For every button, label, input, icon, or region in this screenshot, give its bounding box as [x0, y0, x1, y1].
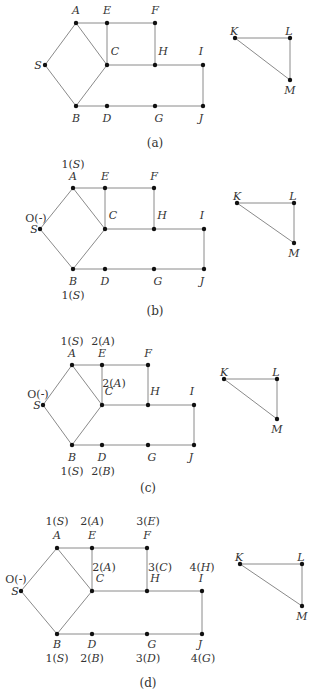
edge-B-C — [73, 229, 105, 269]
node-label-G: G — [148, 638, 157, 651]
node-D — [105, 104, 109, 108]
node-I — [200, 589, 204, 593]
node-label-E: E — [100, 170, 109, 183]
edge-K-M — [224, 379, 277, 419]
node-label-B: B — [71, 112, 80, 125]
node-G — [152, 267, 156, 271]
distance-label: 2(A) — [80, 515, 104, 528]
node-label-L: L — [284, 25, 292, 38]
node-F — [145, 546, 149, 550]
node-B — [74, 104, 78, 108]
node-C — [105, 63, 109, 67]
distance-label: 1(S) — [61, 289, 84, 302]
node-label-E: E — [87, 529, 96, 542]
node-G — [153, 104, 157, 108]
node-S — [43, 63, 47, 67]
node-F — [146, 363, 150, 367]
node-label-M: M — [295, 610, 308, 623]
node-label-H: H — [157, 45, 168, 58]
panel-caption-d: (d) — [139, 676, 156, 690]
node-C — [100, 403, 104, 407]
node-label-F: F — [142, 529, 151, 542]
node-D — [103, 267, 107, 271]
node-C — [90, 589, 94, 593]
node-label-B: B — [67, 451, 76, 464]
node-S — [19, 589, 23, 593]
node-D — [90, 632, 94, 636]
node-label-C: C — [111, 45, 120, 58]
node-D — [100, 443, 104, 447]
node-S — [38, 227, 42, 231]
node-H — [146, 403, 150, 407]
node-label-K: K — [232, 190, 242, 203]
node-label-K: K — [234, 551, 244, 564]
distance-label: 2(B) — [91, 465, 115, 478]
panel-caption-a: (a) — [147, 136, 164, 150]
edge-K-M — [235, 38, 290, 80]
node-label-E: E — [97, 347, 106, 360]
node-G — [145, 632, 149, 636]
edge-K-M — [240, 564, 302, 606]
node-label-B: B — [68, 275, 77, 288]
panel-c: AEFSCHIBDGJKLM1(S)2(A)2(A)O(-)1(S)2(B)(c… — [27, 335, 283, 495]
node-label-D: D — [102, 112, 112, 125]
panel-b: AEFSCHIBDGJKLM1(S)O(-)1(S)(b) — [25, 158, 300, 318]
node-label-H: H — [156, 209, 167, 222]
node-label-D: D — [87, 638, 97, 651]
distance-label: O(-) — [5, 573, 26, 586]
edge-A-C — [72, 365, 102, 405]
distance-label: 1(S) — [60, 465, 83, 478]
panel-d: AEFSCHIBDGJKLM1(S)2(A)3(E)2(A)3(C)4(H)O(… — [5, 515, 308, 690]
node-label-A: A — [71, 4, 80, 17]
node-B — [71, 267, 75, 271]
node-label-S: S — [34, 59, 42, 72]
node-label-F: F — [150, 4, 159, 17]
node-B — [55, 632, 59, 636]
node-label-H: H — [149, 385, 160, 398]
edge-A-C — [76, 23, 107, 65]
node-label-I: I — [199, 209, 205, 222]
node-H — [153, 63, 157, 67]
edge-B-C — [76, 65, 107, 106]
node-label-A: A — [68, 170, 77, 183]
node-label-A: A — [52, 529, 61, 542]
edge-S-B — [45, 65, 76, 106]
panel-caption-b: (b) — [146, 304, 163, 318]
node-E — [90, 546, 94, 550]
node-label-K: K — [229, 25, 239, 38]
edge-B-C — [57, 591, 92, 634]
edge-A-C — [73, 188, 105, 229]
node-label-D: D — [100, 275, 110, 288]
node-S — [41, 403, 45, 407]
node-H — [152, 227, 156, 231]
distance-label: 2(A) — [91, 335, 115, 348]
edge-S-B — [43, 405, 72, 445]
node-label-M: M — [270, 423, 283, 436]
edge-S-B — [21, 591, 57, 634]
panel-caption-c: (c) — [140, 481, 156, 495]
node-M — [288, 78, 292, 82]
node-label-I: I — [189, 385, 195, 398]
node-F — [153, 21, 157, 25]
node-label-L: L — [271, 366, 279, 379]
node-A — [70, 363, 74, 367]
node-E — [100, 363, 104, 367]
node-label-F: F — [149, 170, 158, 183]
node-label-E: E — [102, 4, 111, 17]
node-G — [146, 443, 150, 447]
node-C — [103, 227, 107, 231]
distance-label: 1(S) — [45, 515, 68, 528]
distance-label: 1(S) — [60, 335, 83, 348]
node-label-G: G — [155, 112, 164, 125]
node-I — [201, 63, 205, 67]
distance-label: 4(H) — [189, 561, 214, 574]
edge-S-A — [45, 23, 76, 65]
node-label-J: J — [187, 451, 194, 464]
node-label-L: L — [296, 551, 304, 564]
node-A — [71, 186, 75, 190]
node-label-F: F — [143, 347, 152, 360]
panel-a: AEFSCHIBDGJKLM(a) — [34, 4, 296, 150]
distance-label: O(-) — [25, 212, 46, 225]
distance-label: 2(A) — [92, 561, 116, 574]
node-E — [105, 21, 109, 25]
